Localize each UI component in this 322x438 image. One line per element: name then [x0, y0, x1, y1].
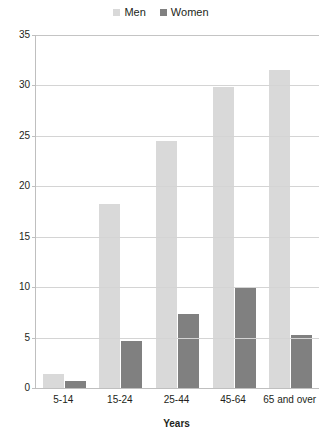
y-tick-label: 35: [2, 30, 30, 40]
x-tick-label: 45-64: [220, 394, 246, 406]
gridline: [36, 287, 319, 288]
y-tick-label: 15: [2, 232, 30, 242]
y-tickmark: [32, 186, 36, 187]
x-axis-title: Years: [35, 418, 318, 430]
bar-men-15-24: [99, 204, 120, 388]
bar-men-45-64: [213, 87, 234, 388]
y-tickmark: [32, 237, 36, 238]
bar-group: [262, 35, 319, 388]
bar-men-5-14: [43, 374, 64, 388]
y-tick-label: 5: [2, 333, 30, 343]
y-tickmark: [32, 35, 36, 36]
y-tick-label: 25: [2, 131, 30, 141]
bar-group: [36, 35, 93, 388]
y-tickmark: [32, 85, 36, 86]
bar-men-65-and-over: [269, 70, 290, 388]
gridline: [36, 136, 319, 137]
gridline: [36, 35, 319, 36]
bar-group: [149, 35, 206, 388]
plot-area: [35, 35, 319, 389]
bars-layer: [36, 35, 319, 388]
bar-women-65-and-over: [291, 335, 312, 388]
y-tickmark: [32, 338, 36, 339]
bar-women-15-24: [121, 341, 142, 388]
y-tick-label: 10: [2, 282, 30, 292]
y-tickmark: [32, 388, 36, 389]
x-tick-label: 5-14: [53, 394, 73, 406]
x-axis: 5-1415-2425-4445-6465 and over: [35, 394, 318, 410]
x-tick-label: 65 and over: [263, 394, 316, 406]
y-tickmark: [32, 287, 36, 288]
bar-group: [206, 35, 263, 388]
bar-women-5-14: [65, 381, 86, 388]
bar-group: [93, 35, 150, 388]
bar-chart: Men Women 05101520253035 5-1415-2425-444…: [0, 0, 322, 438]
gridline: [36, 186, 319, 187]
y-tick-label: 0: [2, 383, 30, 393]
plot-wrapper: 05101520253035 5-1415-2425-4445-6465 and…: [0, 0, 322, 438]
y-tick-label: 20: [2, 181, 30, 191]
bar-men-25-44: [156, 141, 177, 388]
gridline: [36, 237, 319, 238]
bar-women-25-44: [178, 314, 199, 388]
gridline: [36, 338, 319, 339]
x-tick-label: 15-24: [107, 394, 133, 406]
y-axis: 05101520253035: [0, 0, 30, 438]
x-tick-label: 25-44: [164, 394, 190, 406]
y-tick-label: 30: [2, 80, 30, 90]
y-tickmark: [32, 136, 36, 137]
gridline: [36, 85, 319, 86]
